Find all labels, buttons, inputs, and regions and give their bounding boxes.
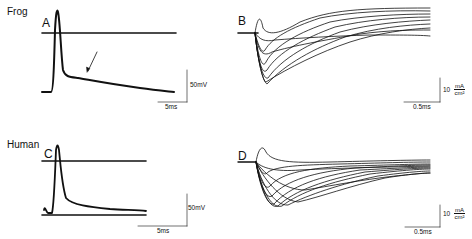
scale-y-c: 50mV [188, 205, 205, 212]
species-label-human: Human [7, 140, 39, 150]
scale-x-c: 5ms [157, 228, 169, 235]
scale-y-a: 50mV [190, 82, 207, 89]
panel-d-traces [238, 148, 440, 227]
panel-label-a: A [42, 17, 50, 29]
panel-label-c: C [44, 148, 53, 160]
panel-c-traces [42, 146, 187, 227]
panel-b-traces [238, 8, 440, 102]
scale-x-d: 0.5ms [414, 229, 432, 236]
scale-x-b: 0.5ms [413, 104, 431, 111]
figure-canvas [0, 0, 472, 239]
scale-y-b-unit: mA cm² [454, 83, 465, 96]
scale-y-d-unit: mA cm² [454, 207, 465, 220]
panel-label-b: B [238, 15, 246, 27]
scale-y-b-value: 10 [443, 87, 450, 94]
panel-label-d: D [238, 150, 247, 162]
panel-a-traces [42, 11, 187, 102]
scale-x-a: 5ms [165, 104, 177, 111]
scale-y-d-value: 10 [443, 211, 450, 218]
species-label-frog: Frog [7, 7, 28, 17]
